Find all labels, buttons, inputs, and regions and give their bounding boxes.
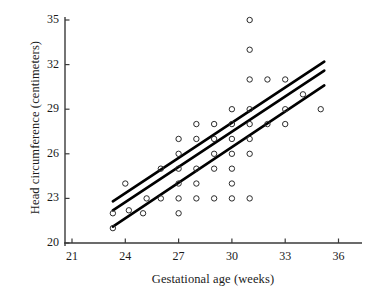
data-point <box>229 181 234 186</box>
data-point <box>247 196 252 201</box>
scatter-plot-figure: Head circumference (centimeters) Gestati… <box>0 0 380 299</box>
data-point <box>176 211 181 216</box>
data-point <box>158 196 163 201</box>
y-tick-label: 20 <box>33 235 59 250</box>
y-axis-label: Head circumference (centimeters) <box>28 13 43 243</box>
data-point <box>247 17 252 22</box>
x-axis-label-text: Gestational age (weeks) <box>106 272 274 286</box>
data-point <box>265 77 270 82</box>
data-point <box>176 196 181 201</box>
data-point <box>123 181 128 186</box>
data-point <box>211 151 216 156</box>
data-point <box>229 166 234 171</box>
data-point <box>300 92 305 97</box>
data-point <box>211 136 216 141</box>
data-point <box>140 211 145 216</box>
regression-line <box>113 71 324 211</box>
data-point <box>229 151 234 156</box>
x-tick-label: 27 <box>164 249 194 264</box>
y-tick-label: 26 <box>33 146 59 161</box>
data-point <box>176 151 181 156</box>
x-tick-label: 24 <box>110 249 140 264</box>
data-point <box>144 196 149 201</box>
x-tick-label: 30 <box>217 249 247 264</box>
y-tick-label: 32 <box>33 57 59 72</box>
y-tick-label: 35 <box>33 12 59 27</box>
data-point <box>194 181 199 186</box>
data-point <box>283 121 288 126</box>
data-point <box>247 136 252 141</box>
data-point <box>247 121 252 126</box>
data-point <box>194 121 199 126</box>
data-point <box>229 107 234 112</box>
data-point <box>126 208 131 213</box>
data-point <box>229 196 234 201</box>
upper-confidence-line <box>113 62 324 202</box>
y-tick-label: 23 <box>33 190 59 205</box>
data-point <box>283 77 288 82</box>
data-point <box>194 136 199 141</box>
data-point <box>229 136 234 141</box>
data-point <box>211 121 216 126</box>
data-point <box>247 77 252 82</box>
x-axis-label: Gestational age (weeks) <box>0 272 380 287</box>
data-point <box>247 151 252 156</box>
data-point <box>176 136 181 141</box>
x-tick-label: 33 <box>270 249 300 264</box>
x-tick-label: 21 <box>57 249 87 264</box>
data-point <box>318 107 323 112</box>
x-tick-label: 36 <box>324 249 354 264</box>
y-tick-label: 29 <box>33 101 59 116</box>
data-point <box>247 47 252 52</box>
data-point <box>211 196 216 201</box>
lower-confidence-line <box>113 85 324 226</box>
data-point <box>211 166 216 171</box>
data-point <box>194 196 199 201</box>
